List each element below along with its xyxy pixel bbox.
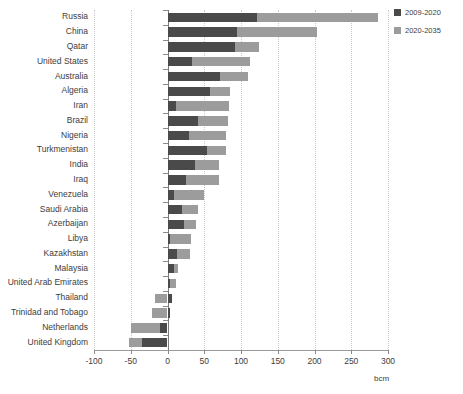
x-axis-unit-label: bcm	[374, 374, 389, 383]
y-axis-tick	[163, 143, 168, 144]
y-axis-tick	[163, 113, 168, 114]
y-axis-tick	[163, 158, 168, 159]
y-axis-tick	[163, 69, 168, 70]
y-axis-tick	[163, 276, 168, 277]
y-axis-tick	[163, 261, 168, 262]
y-axis-tick	[163, 40, 168, 41]
x-axis-tick	[94, 350, 95, 354]
x-axis-tick-label: 200	[307, 356, 321, 366]
y-axis-category-labels: RussiaChinaQatarUnited StatesAustraliaAl…	[0, 10, 88, 350]
y-axis-tick	[163, 291, 168, 292]
y-axis-tick	[163, 247, 168, 248]
gridline	[388, 10, 390, 350]
x-axis-tick	[388, 350, 389, 354]
category-label: United States	[37, 57, 88, 66]
category-label: Trinidad and Tobago	[11, 308, 88, 317]
y-axis-tick	[163, 335, 168, 336]
category-label: India	[70, 160, 88, 169]
y-axis-tick	[163, 54, 168, 55]
x-axis-tick	[278, 350, 279, 354]
category-label: Thailand	[55, 293, 88, 302]
y-axis-tick	[163, 25, 168, 26]
y-axis-tick	[163, 173, 168, 174]
x-axis-tick-label: -100	[85, 356, 102, 366]
x-axis-tick	[204, 350, 205, 354]
legend-swatch-icon	[394, 27, 401, 34]
x-axis-tick	[351, 350, 352, 354]
x-axis-tick-label: 50	[200, 356, 209, 366]
x-axis-tick-label: 300	[381, 356, 395, 366]
category-label: Nigeria	[61, 131, 88, 140]
x-axis-tick	[131, 350, 132, 354]
category-label: Libya	[68, 234, 88, 243]
category-label: United Kingdom	[28, 338, 88, 347]
category-label: Azerbaijan	[48, 219, 88, 228]
category-label: Netherlands	[42, 323, 88, 332]
category-label: United Arab Emirates	[8, 278, 88, 287]
bar-chart: RussiaChinaQatarUnited StatesAustraliaAl…	[0, 0, 463, 394]
y-axis-tick	[163, 232, 168, 233]
x-axis-tick	[168, 350, 169, 354]
legend-item[interactable]: 2009-2020	[394, 8, 441, 17]
x-axis-tick-label: 150	[271, 356, 285, 366]
y-axis-tick	[163, 202, 168, 203]
y-axis-tick	[163, 99, 168, 100]
y-axis-tick	[163, 306, 168, 307]
x-axis-tick-label: 0	[165, 356, 170, 366]
category-label: China	[66, 27, 88, 36]
category-label: Iran	[73, 101, 88, 110]
y-axis-tick	[163, 320, 168, 321]
legend-item[interactable]: 2020-2035	[394, 26, 441, 35]
category-label: Venezuela	[48, 190, 88, 199]
y-axis-tick	[163, 84, 168, 85]
y-axis-tick	[163, 10, 168, 11]
category-label: Brazil	[67, 116, 88, 125]
category-label: Saudi Arabia	[40, 205, 88, 214]
y-axis-tick	[163, 128, 168, 129]
y-axis-ticks	[94, 10, 388, 350]
x-axis-tick	[241, 350, 242, 354]
category-label: Algeria	[62, 86, 88, 95]
category-label: Russia	[62, 12, 88, 21]
legend-label: 2009-2020	[405, 8, 441, 17]
x-axis-tick-label: 100	[234, 356, 248, 366]
category-label: Australia	[55, 72, 88, 81]
chart-legend: 2009-20202020-2035	[394, 8, 441, 44]
x-axis-tick-label: 250	[344, 356, 358, 366]
category-label: Malaysia	[54, 264, 88, 273]
plot-area	[94, 10, 388, 350]
category-label: Iraq	[73, 175, 88, 184]
category-label: Qatar	[67, 42, 88, 51]
legend-label: 2020-2035	[405, 26, 441, 35]
category-label: Turkmenistan	[37, 145, 88, 154]
x-axis-tick	[315, 350, 316, 354]
x-axis-tick-label: -50	[125, 356, 137, 366]
legend-swatch-icon	[394, 9, 401, 16]
y-axis-tick	[163, 187, 168, 188]
y-axis-tick	[163, 217, 168, 218]
category-label: Kazakhstan	[44, 249, 88, 258]
